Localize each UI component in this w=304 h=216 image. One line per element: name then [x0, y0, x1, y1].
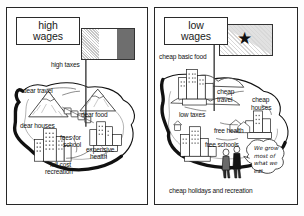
label-expensive-health-line2: health [90, 153, 107, 160]
panel-low-wages: low wages ★ cheap basic food cheap trave… [154, 7, 298, 205]
label-low-taxes: low taxes [179, 111, 205, 118]
label-dear-travel: dear travel [23, 87, 53, 94]
title-low-wages-line2: wages [170, 31, 222, 42]
label-fees-for-school-line2: school [63, 141, 81, 148]
label-cheap-basic-food: cheap basic food [159, 53, 206, 60]
flag-band-fly [117, 29, 134, 59]
label-dear-houses: dear houses [20, 122, 55, 129]
label-cheap-travel-line2: travel [217, 96, 232, 103]
label-cheap-travel-line1: cheap [217, 88, 234, 95]
title-high-wages-line2: wages [22, 31, 74, 42]
villager-right [233, 146, 241, 178]
label-free-schools: free schools [205, 141, 239, 148]
diagram-sheet: high wages high taxes dear travel dear f… [0, 0, 304, 216]
label-cheap-holidays-and-recreation: cheap holidays and recreation [169, 187, 253, 194]
flag-band-hoist [82, 29, 99, 59]
villager-left [222, 149, 230, 178]
label-full-cost-recreation-line2: recreation [45, 168, 73, 175]
flag-star-icon: ★ [237, 30, 252, 47]
panel-high-wages: high wages high taxes dear travel dear f… [6, 7, 148, 205]
title-box-low-wages: low wages [164, 17, 228, 45]
tricolour-flag [81, 28, 135, 60]
label-dear-food: dear food [81, 111, 108, 118]
flag-band-middle [99, 29, 116, 59]
label-free-health: free health [214, 127, 244, 134]
label-high-taxes: high taxes [51, 61, 80, 68]
label-cheap-houses-line2: houses [251, 104, 271, 111]
speech-bubble-text: We grow most of what we eat. [254, 145, 288, 175]
label-cheap-houses-line1: cheap [252, 96, 269, 103]
title-box-high-wages: high wages [16, 17, 80, 45]
